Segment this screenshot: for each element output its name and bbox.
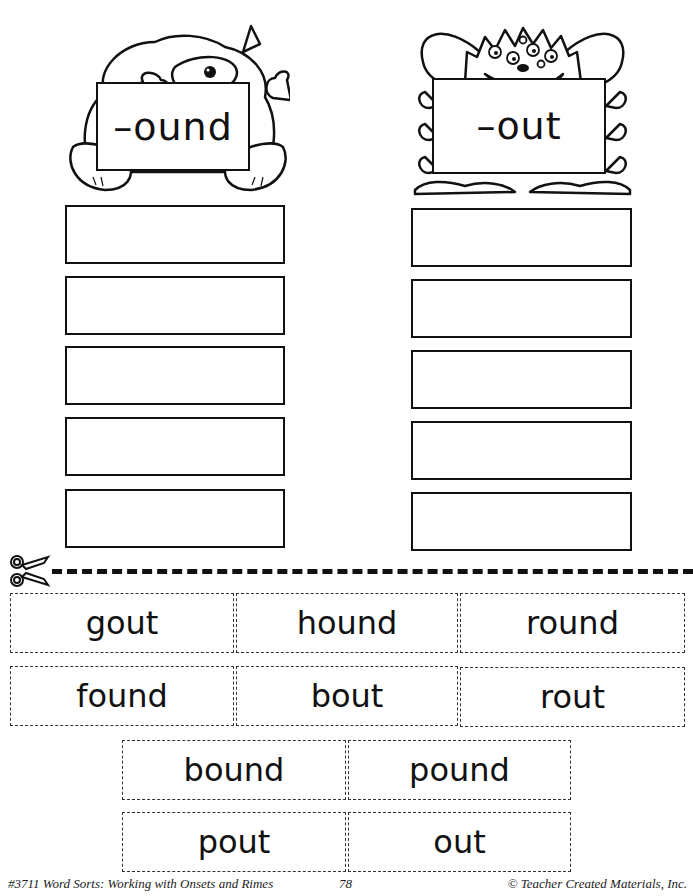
right-answer-box-1[interactable] [411, 208, 632, 267]
right-header-label: –out [476, 104, 561, 148]
word-card-label: out [433, 823, 485, 861]
cut-line [52, 569, 693, 574]
footer-page-number: 78 [339, 876, 352, 892]
footer-copyright: © Teacher Created Materials, Inc. [508, 876, 687, 892]
right-header-sign: –out [432, 78, 606, 174]
word-card[interactable]: bout [236, 666, 458, 726]
scissors-icon [8, 553, 56, 589]
word-card[interactable]: gout [10, 593, 234, 653]
word-card[interactable]: rout [460, 667, 685, 727]
word-card[interactable]: pout [122, 812, 346, 872]
word-card[interactable]: hound [236, 593, 458, 653]
word-card[interactable]: round [460, 593, 685, 653]
word-card-label: hound [297, 604, 398, 642]
word-card-label: gout [86, 604, 159, 642]
word-card-label: pound [409, 751, 510, 789]
word-card-label: bout [311, 677, 384, 715]
footer-title: #3711 Word Sorts: Working with Onsets an… [8, 876, 273, 892]
left-answer-box-1[interactable] [65, 205, 285, 264]
word-card[interactable]: out [348, 812, 571, 872]
word-card-label: rout [540, 678, 605, 716]
word-card[interactable]: pound [348, 740, 571, 800]
right-answer-box-4[interactable] [411, 421, 632, 480]
left-answer-box-2[interactable] [65, 276, 285, 335]
word-card-label: bound [184, 751, 285, 789]
left-header-label: –ound [113, 105, 233, 149]
right-answer-box-3[interactable] [411, 350, 632, 409]
word-card-label: found [76, 677, 168, 715]
right-answer-box-5[interactable] [411, 492, 632, 551]
left-answer-box-5[interactable] [65, 489, 285, 548]
word-card-label: round [526, 604, 619, 642]
left-header-sign: –ound [96, 82, 250, 171]
word-card[interactable]: found [10, 666, 234, 726]
right-answer-box-2[interactable] [411, 279, 632, 338]
word-card[interactable]: bound [122, 740, 346, 800]
left-answer-box-4[interactable] [65, 417, 285, 476]
word-card-label: pout [198, 823, 271, 861]
left-answer-box-3[interactable] [65, 346, 285, 405]
